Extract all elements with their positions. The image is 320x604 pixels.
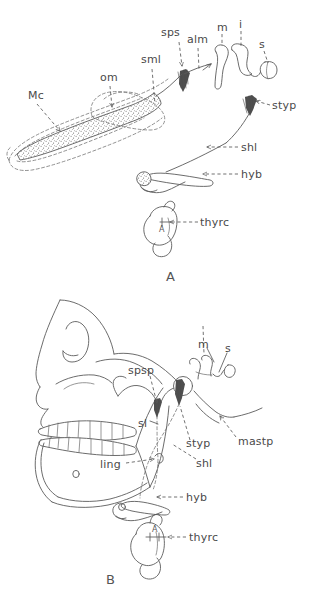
label-a-alm: alm (187, 33, 208, 46)
label-a-i: i (239, 18, 242, 31)
label-b-sl: sl (138, 417, 147, 430)
label-b-inner-A: A (152, 525, 158, 534)
label-a-hyb: hyb (241, 168, 262, 181)
label-a-sml: sml (141, 53, 161, 66)
label-a-m: m (217, 21, 228, 34)
label-b-ling: ling (100, 458, 121, 471)
anatomical-figure: Mc om sml sps alm m i s styp shl hyb thy… (0, 0, 320, 604)
label-a-om: om (100, 71, 118, 84)
label-a-Mc: Mc (28, 89, 44, 102)
label-a-thyrc: thyrc (200, 216, 229, 229)
panel-letter-b: B (106, 572, 115, 587)
label-b-hyb: hyb (186, 491, 207, 504)
label-b-thyrc: thyrc (189, 531, 218, 544)
label-a-inner-A: A (159, 225, 165, 234)
hyoid-lesser-horn-a (137, 172, 151, 186)
figure-canvas: Mc om sml sps alm m i s styp shl hyb thy… (0, 0, 320, 604)
stapes-footplate-a (260, 61, 277, 78)
label-a-sps: sps (161, 26, 180, 39)
label-a-styp: styp (272, 99, 296, 112)
label-a-shl: shl (241, 141, 257, 154)
label-b-shl: shl (196, 457, 212, 470)
label-a-s: s (259, 38, 265, 51)
panel-letter-a: A (166, 269, 175, 284)
label-b-m: m (198, 338, 209, 351)
label-b-styp: styp (186, 437, 210, 450)
label-b-s: s (225, 342, 231, 355)
stapes-footplate-b (224, 365, 235, 378)
label-b-mastp: mastp (238, 435, 273, 448)
label-b-spsp: spsp (128, 364, 154, 377)
